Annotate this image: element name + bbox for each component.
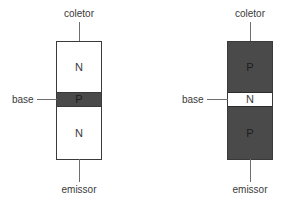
pnp-emitter-label: emissor <box>220 185 280 195</box>
npn-emitter-label: emissor <box>49 185 109 195</box>
pnp-emitter-region: P <box>228 107 272 159</box>
pnp-collector-region: P <box>228 42 272 92</box>
npn-base-lead <box>37 99 57 100</box>
npn-collector-region: N <box>57 42 101 92</box>
npn-emitter-region: N <box>57 107 101 159</box>
transistor-diagram-canvas: coletor N P N base emissor coletor P N P… <box>0 0 282 203</box>
npn-base-region: P <box>57 92 101 107</box>
npn-collector-lead <box>79 22 80 42</box>
pnp-transistor-figure: coletor P N P base emissor <box>141 0 282 203</box>
pnp-emitter-lead <box>250 159 251 182</box>
npn-transistor-figure: coletor N P N base emissor <box>0 0 141 203</box>
pnp-collector-label: coletor <box>220 9 280 19</box>
pnp-device-body: P N P <box>227 41 273 160</box>
pnp-base-region: N <box>228 92 272 107</box>
npn-collector-label: coletor <box>49 9 109 19</box>
pnp-collector-lead <box>250 22 251 42</box>
pnp-base-lead <box>207 99 228 100</box>
npn-device-body: N P N <box>56 41 102 160</box>
pnp-base-label: base <box>182 95 204 105</box>
npn-base-label: base <box>12 95 34 105</box>
npn-emitter-lead <box>79 159 80 182</box>
